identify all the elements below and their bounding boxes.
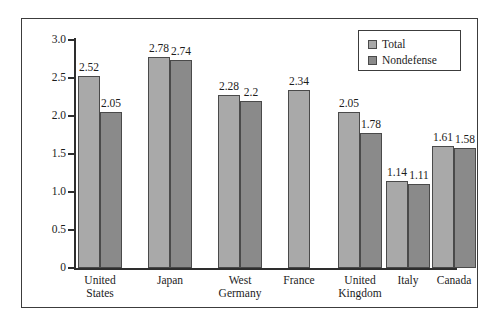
x-axis-line bbox=[74, 268, 457, 270]
bar-value-label: 1.11 bbox=[402, 170, 436, 182]
bar-total[interactable] bbox=[386, 181, 408, 268]
y-tick-mark bbox=[68, 229, 75, 230]
bar-nondefense[interactable] bbox=[408, 184, 430, 268]
bar-total[interactable] bbox=[432, 146, 454, 268]
bar-total[interactable] bbox=[218, 95, 240, 268]
x-category-label: Canada bbox=[414, 274, 492, 287]
chart-legend: Total Nondefense bbox=[358, 30, 461, 71]
bar-total[interactable] bbox=[288, 90, 310, 268]
x-category-label: Japan bbox=[130, 274, 210, 287]
y-tick-label: 0 bbox=[22, 262, 66, 274]
bar-value-label: 2.74 bbox=[164, 46, 198, 58]
y-tick-label: 2.5 bbox=[22, 72, 66, 84]
bar-value-label: 2.2 bbox=[234, 87, 268, 99]
bar-nondefense[interactable] bbox=[360, 133, 382, 268]
legend-label-total: Total bbox=[382, 39, 405, 51]
y-tick-mark bbox=[68, 39, 75, 40]
bar-value-label: 2.05 bbox=[332, 98, 366, 110]
bar-nondefense[interactable] bbox=[170, 60, 192, 268]
y-tick-label: 1.0 bbox=[22, 186, 66, 198]
bar-nondefense[interactable] bbox=[240, 101, 262, 268]
bar-value-label: 2.34 bbox=[282, 76, 316, 88]
y-tick-mark bbox=[68, 153, 75, 154]
legend-label-nondefense: Nondefense bbox=[382, 55, 437, 67]
y-tick-mark bbox=[68, 191, 75, 192]
bar-value-label: 2.52 bbox=[72, 62, 106, 74]
y-tick-label: 3.0 bbox=[22, 34, 66, 46]
bar-nondefense[interactable] bbox=[454, 148, 476, 268]
total-swatch-icon bbox=[368, 40, 377, 49]
y-tick-label: 2.0 bbox=[22, 110, 66, 122]
y-tick-mark bbox=[68, 77, 75, 78]
bar-value-label: 1.78 bbox=[354, 119, 388, 131]
x-category-label: United States bbox=[60, 274, 140, 300]
bar-total[interactable] bbox=[338, 112, 360, 268]
legend-item-total[interactable]: Total bbox=[368, 39, 405, 51]
y-tick-mark bbox=[68, 115, 75, 116]
bar-value-label: 2.05 bbox=[94, 98, 128, 110]
nondefense-swatch-icon bbox=[368, 56, 377, 65]
bar-total[interactable] bbox=[148, 57, 170, 268]
bar-value-label: 1.58 bbox=[448, 134, 482, 146]
legend-item-nondefense[interactable]: Nondefense bbox=[368, 55, 437, 67]
y-tick-label: 0.5 bbox=[22, 224, 66, 236]
bar-chart-figure: 3.02.52.01.51.00.50 Percent 2.522.052.78… bbox=[0, 0, 492, 326]
bar-nondefense[interactable] bbox=[100, 112, 122, 268]
y-tick-label: 1.5 bbox=[22, 148, 66, 160]
y-tick-mark bbox=[68, 267, 75, 268]
